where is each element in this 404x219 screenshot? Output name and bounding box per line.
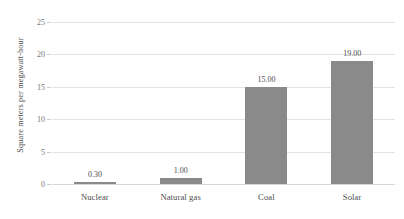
bar (331, 61, 373, 184)
bar-slot: 15.00 (224, 22, 310, 184)
y-tick-label: 15 (37, 82, 52, 91)
bar-value-label: 15.00 (257, 75, 275, 84)
bar-value-label: 1.00 (174, 166, 188, 175)
bar-value-label: 19.00 (343, 49, 361, 58)
bar-slot: 0.30 (52, 22, 138, 184)
bar-value-label: 0.30 (88, 170, 102, 179)
x-axis-labels: NuclearNatural gasCoalSolar (52, 192, 395, 202)
y-tick-label: 0 (41, 180, 52, 189)
y-axis-title: Square meters per megawatt-hour (14, 5, 28, 185)
y-tick-label: 25 (37, 18, 52, 27)
bar-series: 0.301.0015.0019.00 (52, 22, 395, 184)
y-tick-label: 5 (41, 147, 52, 156)
bar (74, 182, 116, 184)
bar (245, 87, 287, 184)
x-axis-label: Nuclear (52, 192, 138, 202)
bar-slot: 19.00 (309, 22, 395, 184)
plot-area: 0510152025 0.301.0015.0019.00 (52, 22, 395, 184)
x-axis-label: Natural gas (138, 192, 224, 202)
bar (160, 178, 202, 184)
bar-chart: Square meters per megawatt-hour 05101520… (0, 0, 404, 219)
bar-slot: 1.00 (138, 22, 224, 184)
y-tick-label: 20 (37, 50, 52, 59)
x-axis-label: Solar (309, 192, 395, 202)
y-tick-label: 10 (37, 115, 52, 124)
x-axis-label: Coal (224, 192, 310, 202)
gridline: 0 (52, 184, 395, 185)
